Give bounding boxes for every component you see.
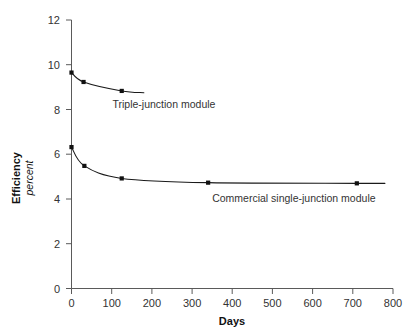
data-point-marker: [120, 176, 124, 180]
y-axis-tick-labels: 0 2 4 6 8 10 12: [48, 14, 60, 295]
data-point-marker: [120, 89, 124, 93]
x-tick-label-400: 400: [223, 297, 241, 309]
axes-group: [72, 20, 394, 289]
y-tick-label-2: 2: [54, 238, 60, 250]
series-commercial-single-junction: [69, 145, 385, 185]
data-point-marker: [206, 181, 210, 185]
data-point-marker: [81, 80, 85, 84]
x-tick-label-600: 600: [303, 297, 321, 309]
x-tick-label-100: 100: [103, 297, 121, 309]
y-tick-label-0: 0: [54, 283, 60, 295]
x-axis-ticks: [72, 289, 394, 295]
y-tick-label-12: 12: [48, 14, 60, 26]
x-axis-tick-labels: 0 100 200 300 400 500 600 700 800: [68, 297, 402, 309]
y-axis-title: Efficiency: [10, 151, 22, 204]
x-tick-label-0: 0: [68, 297, 74, 309]
y-tick-label-10: 10: [48, 59, 60, 71]
y-tick-label-8: 8: [54, 104, 60, 116]
annotation-triple-junction: Triple-junction module: [112, 98, 215, 110]
line-chart-plot: 0 2 4 6 8 10 12 0 100 200 300 400 500: [0, 0, 415, 336]
data-point-marker: [69, 145, 73, 149]
x-tick-label-200: 200: [143, 297, 161, 309]
y-tick-label-4: 4: [54, 193, 60, 205]
series-triple-junction: [69, 70, 143, 93]
y-axis-subtitle: percent: [23, 159, 35, 196]
y-axis-ticks: [66, 20, 72, 289]
chart-figure: 0 2 4 6 8 10 12 0 100 200 300 400 500: [0, 0, 415, 336]
data-point-marker: [355, 181, 359, 185]
x-tick-label-300: 300: [183, 297, 201, 309]
x-tick-label-800: 800: [384, 297, 402, 309]
annotation-commercial-single-junction: Commercial single-junction module: [212, 192, 376, 204]
x-axis-title: Days: [219, 315, 245, 327]
x-tick-label-500: 500: [263, 297, 281, 309]
x-tick-label-700: 700: [344, 297, 362, 309]
data-point-marker: [82, 164, 86, 168]
y-tick-label-6: 6: [54, 148, 60, 160]
series-commercial-single-junction-line: [72, 147, 385, 183]
data-point-marker: [69, 70, 73, 74]
